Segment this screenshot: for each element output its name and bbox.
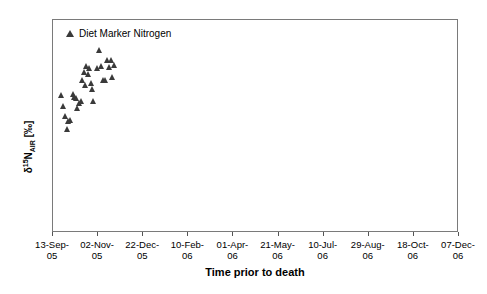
data-point-marker	[86, 65, 92, 71]
data-point-marker	[67, 117, 73, 123]
x-axis-tick-label: 21-May-06	[260, 239, 295, 261]
data-point-marker	[64, 126, 70, 132]
x-axis-tick-mark	[458, 232, 459, 236]
x-axis-tick-label: 22-Dec-05	[125, 239, 159, 261]
y-axis-standard: AIR	[29, 140, 36, 152]
x-axis-tick-mark	[323, 232, 324, 236]
x-axis-tick-mark	[232, 232, 233, 236]
x-axis-tick-label: 13-Sep-05	[35, 239, 69, 261]
data-point-marker	[111, 62, 117, 68]
data-point-marker	[98, 63, 104, 69]
x-axis-tick-mark	[97, 232, 98, 236]
x-axis-tick-mark	[142, 232, 143, 236]
x-axis-tick-mark	[413, 232, 414, 236]
x-axis-tick-label: 10-Jul-06	[308, 239, 337, 261]
plot-area	[52, 19, 458, 232]
x-axis-tick-mark	[187, 232, 188, 236]
data-point-marker	[109, 74, 115, 80]
data-point-marker	[89, 86, 95, 92]
x-axis-tick-label: 02-Nov-05	[80, 239, 114, 261]
data-point-marker	[102, 77, 108, 83]
chart-legend: Diet Marker Nitrogen	[66, 28, 171, 39]
x-axis-tick-mark	[52, 232, 53, 236]
triangle-marker-icon	[66, 30, 74, 37]
y-axis-mass: 15	[22, 159, 29, 167]
data-point-marker	[60, 103, 66, 109]
y-axis-delta: δ	[23, 167, 34, 173]
x-axis-tick-mark	[278, 232, 279, 236]
data-point-marker	[58, 92, 64, 98]
data-point-marker	[90, 98, 96, 104]
x-axis-tick-label: 29-Aug-06	[351, 239, 385, 261]
x-axis-tick-mark	[368, 232, 369, 236]
y-axis-title: δ15NAIR [‰]	[22, 121, 36, 174]
data-point-marker	[78, 98, 84, 104]
y-axis-element: N	[23, 152, 34, 159]
data-point-marker	[96, 47, 102, 53]
x-axis-tick-label: 07-Dec-06	[441, 239, 475, 261]
x-axis-tick-label: 10-Feb-06	[171, 239, 204, 261]
data-point-marker	[88, 80, 94, 86]
data-point-marker	[85, 71, 91, 77]
legend-item-label: Diet Marker Nitrogen	[79, 28, 171, 39]
x-axis-tick-label: 18-Oct-06	[397, 239, 429, 261]
y-axis-units: [‰]	[23, 121, 34, 138]
x-axis-title: Time prior to death	[52, 266, 458, 278]
x-axis-tick-label: 01-Apr-06	[217, 239, 249, 261]
chart-container: 12111098765432 δ15NAIR [‰] 13-Sep-0502-N…	[0, 0, 487, 294]
